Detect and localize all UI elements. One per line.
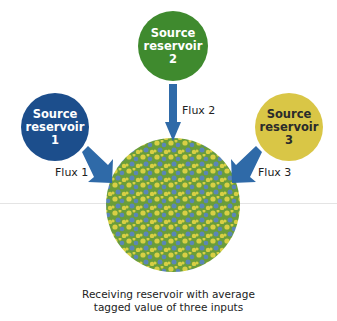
source-3-label-1: Source (267, 108, 312, 121)
source-1-label-2: reservoir (26, 121, 85, 134)
flux-1-label: Flux 1 (55, 166, 88, 179)
receiving-reservoir (106, 138, 240, 272)
source-2-label-2: reservoir (144, 40, 203, 53)
caption-line-1: Receiving reservoir with average (0, 288, 337, 301)
source-reservoir-3: Source reservoir 3 (255, 93, 323, 161)
source-3-label-3: 3 (285, 134, 293, 147)
flux-2-arrow (165, 84, 181, 141)
source-1-label-3: 1 (51, 134, 59, 147)
source-2-label-1: Source (151, 27, 196, 40)
flux-2-label: Flux 2 (182, 104, 215, 117)
source-1-label-1: Source (33, 108, 78, 121)
diagram: Source reservoir 2 Source reservoir 1 So… (0, 0, 337, 321)
source-reservoir-2: Source reservoir 2 (138, 11, 208, 81)
receiver-caption: Receiving reservoir with average tagged … (0, 288, 337, 314)
flux-3-label: Flux 3 (258, 166, 291, 179)
source-2-label-3: 2 (169, 53, 177, 66)
source-reservoir-1: Source reservoir 1 (21, 93, 89, 161)
source-3-label-2: reservoir (260, 121, 319, 134)
caption-line-2: tagged value of three inputs (0, 301, 337, 314)
